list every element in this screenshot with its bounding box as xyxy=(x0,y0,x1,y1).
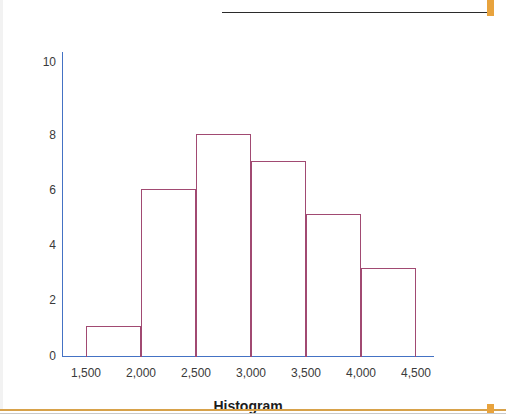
histogram-chart: 0 2 4 6 8 10 1,500 2,000 2,500 3,000 3,5… xyxy=(0,30,506,400)
x-tick-label-1500: 1,500 xyxy=(56,367,116,379)
page-top-tab-marker xyxy=(487,0,494,16)
x-tick-label-2500: 2,500 xyxy=(166,367,226,379)
y-tick-label: 8 xyxy=(30,129,56,141)
x-tick-label-3000: 3,000 xyxy=(221,367,281,379)
page-bottom-rule xyxy=(0,409,506,411)
y-tick-label: 6 xyxy=(30,184,56,196)
page-bottom-rule-secondary xyxy=(0,413,506,414)
x-tick-label-4500: 4,500 xyxy=(386,367,446,379)
histogram-bar xyxy=(306,214,361,357)
x-tick-label-3500: 3,500 xyxy=(276,367,336,379)
y-tick-label: 4 xyxy=(30,239,56,251)
scanned-page: 0 2 4 6 8 10 1,500 2,000 2,500 3,000 3,5… xyxy=(0,0,506,420)
page-bottom-tab-marker xyxy=(487,404,494,413)
x-tick-label-4000: 4,000 xyxy=(331,367,391,379)
chart-title: Histogram xyxy=(62,398,434,414)
histogram-bar xyxy=(86,326,141,357)
histogram-bar xyxy=(141,189,196,357)
y-tick-label: 10 xyxy=(30,56,56,68)
x-tick-label-2000: 2,000 xyxy=(111,367,171,379)
histogram-bar xyxy=(196,134,251,357)
top-horizontal-rule xyxy=(222,12,492,13)
histogram-bar xyxy=(251,161,306,357)
histogram-bar xyxy=(361,268,416,357)
y-tick-label: 0 xyxy=(30,350,56,362)
y-tick-label: 2 xyxy=(30,294,56,306)
